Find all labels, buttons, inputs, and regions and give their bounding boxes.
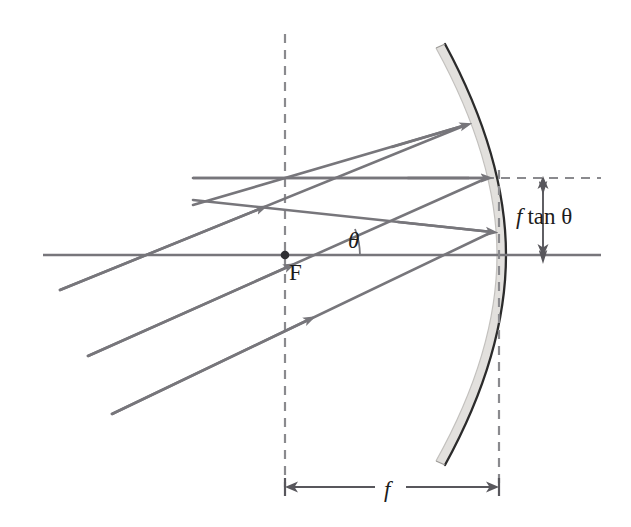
reflected-ray-top-arrow (392, 125, 466, 147)
optics-diagram-canvas: F θ ftan θ f (0, 0, 631, 527)
height-label-f: f (516, 204, 526, 229)
focal-length-label: f (384, 477, 394, 502)
height-label-tan-theta: tan θ (527, 204, 572, 229)
focal-point-label: F (289, 260, 302, 285)
incoming-rays-group (60, 125, 492, 414)
focal-point-dot (281, 251, 290, 260)
reflected-ray-bottom-arrow (398, 222, 492, 232)
focal-length-dimension (285, 478, 499, 496)
reflected-rays-group (193, 125, 492, 232)
theta-angle-label: θ (348, 228, 359, 253)
incoming-ray-top-arrow (60, 208, 262, 290)
height-label: ftan θ (516, 204, 572, 229)
optics-diagram-figure: F θ ftan θ f (0, 0, 631, 527)
